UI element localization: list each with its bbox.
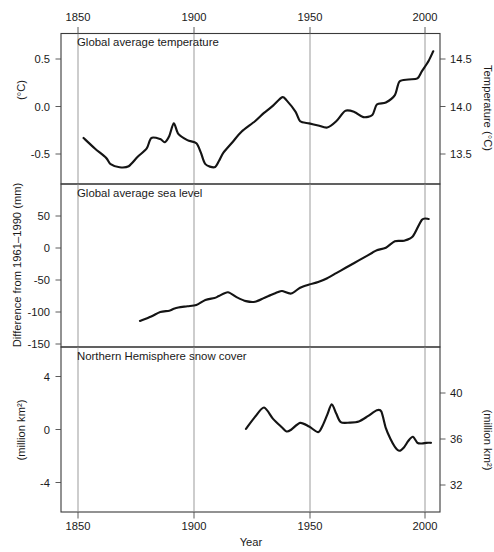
panel-temperature: 1850 1900 1950 2000 0.5 0.0 -0.5 (°C) 14… bbox=[15, 11, 494, 184]
ytick-label-sea-level-1: 0 bbox=[44, 242, 50, 254]
xaxis-title: Year bbox=[240, 536, 263, 548]
bottom-tick-label-1850: 1850 bbox=[66, 520, 91, 532]
ytick-label-sea-level-3: -100 bbox=[28, 306, 50, 318]
ytick-right-label-snow-cover-1: 36 bbox=[450, 433, 462, 445]
bottom-tick-label-1900: 1900 bbox=[182, 520, 207, 532]
ytick-label-temperature-2: -0.5 bbox=[31, 148, 50, 160]
data-line-temperature bbox=[84, 51, 434, 167]
yaxis-title-temperature-right: Temperature (°C) bbox=[482, 65, 494, 151]
panel-title-sea-level: Global average sea level bbox=[77, 187, 202, 199]
top-tick-label-1850: 1850 bbox=[66, 11, 91, 23]
panel-snow-cover: 4 0 -4 (million km²) 40 36 32 (million k… bbox=[15, 347, 494, 512]
panel-title-snow-cover: Northern Hemisphere snow cover bbox=[77, 350, 247, 362]
ytick-label-temperature-0: 0.5 bbox=[34, 53, 50, 65]
ytick-right-label-temperature-0: 14.5 bbox=[450, 53, 472, 65]
yaxis-title-snow-cover-right: (million km²) bbox=[482, 410, 494, 471]
ytick-label-snow-cover-1: 0 bbox=[44, 424, 50, 436]
panel-temperature-frame bbox=[61, 34, 440, 185]
ytick-right-label-temperature-1: 14.0 bbox=[450, 101, 472, 113]
data-line-snow-cover bbox=[246, 404, 431, 451]
ytick-right-label-snow-cover-2: 32 bbox=[450, 479, 462, 491]
figure-canvas: 1850 1900 1950 2000 0.5 0.0 -0.5 (°C) 14… bbox=[0, 0, 494, 552]
climate-indicators-figure: 1850 1900 1950 2000 0.5 0.0 -0.5 (°C) 14… bbox=[0, 0, 494, 552]
panel-sea-level-frame bbox=[61, 184, 440, 347]
panel-sea-level: 50 0 -50 -100 -150 Difference from 1961–… bbox=[11, 182, 440, 350]
top-tick-label-1950: 1950 bbox=[298, 11, 323, 23]
ytick-label-snow-cover-2: -4 bbox=[40, 477, 50, 489]
ytick-label-sea-level-2: -50 bbox=[34, 274, 50, 286]
ytick-label-snow-cover-0: 4 bbox=[44, 371, 50, 383]
bottom-tick-label-2000: 2000 bbox=[413, 520, 438, 532]
ytick-label-sea-level-4: -150 bbox=[28, 338, 50, 350]
bottom-x-axis: 1850 1900 1950 2000 Year bbox=[66, 512, 438, 548]
yaxis-title-temperature-left: (°C) bbox=[15, 80, 27, 100]
panel-snow-cover-frame bbox=[61, 347, 440, 512]
panel-title-temperature: Global average temperature bbox=[77, 36, 219, 48]
bottom-tick-label-1950: 1950 bbox=[298, 520, 323, 532]
yaxis-title-sea-level: Difference from 1961–1990 (mm) bbox=[11, 182, 23, 347]
yaxis-title-snow-cover-left: (million km²) bbox=[15, 399, 27, 460]
ytick-label-temperature-1: 0.0 bbox=[34, 101, 50, 113]
ytick-right-label-temperature-2: 13.5 bbox=[450, 148, 472, 160]
ytick-label-sea-level-0: 50 bbox=[38, 210, 50, 222]
data-line-sea-level bbox=[140, 218, 429, 320]
top-tick-label-1900: 1900 bbox=[182, 11, 207, 23]
ytick-right-label-snow-cover-0: 40 bbox=[450, 387, 462, 399]
top-tick-label-2000: 2000 bbox=[413, 11, 438, 23]
